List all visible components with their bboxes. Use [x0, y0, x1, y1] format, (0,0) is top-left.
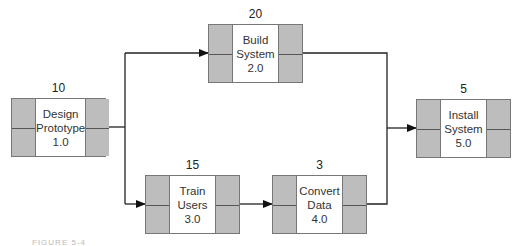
node-label-line2: System [236, 47, 274, 61]
node-label-line1: Convert [299, 184, 339, 198]
node-code: 1.0 [53, 135, 69, 149]
node-label-line1: Install [448, 108, 478, 122]
node-code: 2.0 [248, 61, 264, 75]
node-label-line1: Train [180, 184, 206, 198]
node-label-line2: Users [177, 198, 207, 212]
node-build-system: 20 Build System 2.0 [208, 24, 303, 83]
node-label-line1: Build [243, 33, 269, 47]
node-code: 4.0 [312, 212, 328, 226]
node-box: Train Users 3.0 [145, 175, 240, 234]
node-duration: 20 [208, 7, 303, 21]
node-duration: 10 [11, 81, 106, 95]
node-box: Build System 2.0 [208, 24, 303, 83]
node-code: 3.0 [185, 212, 201, 226]
node-install-system: 5 Install System 5.0 [416, 99, 511, 158]
node-label-line1: Design [43, 107, 79, 121]
node-box: Design Prototype 1.0 [11, 98, 106, 157]
node-code: 5.0 [456, 136, 472, 150]
node-design-prototype: 10 Design Prototype 1.0 [11, 98, 106, 157]
node-label-line2: Data [307, 198, 331, 212]
node-duration: 3 [272, 158, 367, 172]
figure-caption: FIGURE 5-4 [32, 238, 86, 246]
node-convert-data: 3 Convert Data 4.0 [272, 175, 367, 234]
node-duration: 15 [145, 158, 240, 172]
node-box: Convert Data 4.0 [272, 175, 367, 234]
node-duration: 5 [416, 82, 511, 96]
node-box: Install System 5.0 [416, 99, 511, 158]
node-train-users: 15 Train Users 3.0 [145, 175, 240, 234]
node-label-line2: Prototype [36, 121, 85, 135]
node-label-line2: System [444, 122, 482, 136]
